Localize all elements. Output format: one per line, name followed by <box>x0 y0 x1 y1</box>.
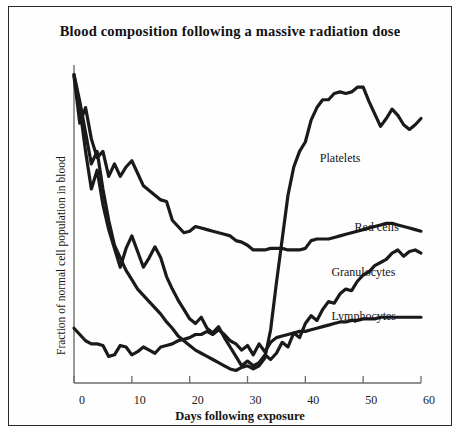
x-tick-label-10: 10 <box>125 393 155 408</box>
figure-frame: Blood composition following a massive ra… <box>8 6 452 426</box>
series-label-red-cells: Red cells <box>355 220 399 235</box>
x-tick-label-0: 0 <box>67 393 97 408</box>
x-tick-label-50: 50 <box>356 393 386 408</box>
x-tick-label-60: 60 <box>414 393 444 408</box>
x-tick-label-20: 20 <box>183 393 213 408</box>
x-axis-ticks <box>74 376 421 383</box>
blood-composition-line-chart <box>9 7 453 427</box>
series-label-lymphocytes: Lymphocytes <box>331 309 396 324</box>
series-label-granulocytes: Granulocytes <box>331 265 395 280</box>
x-tick-label-40: 40 <box>298 393 328 408</box>
series-label-platelets: Platelets <box>320 151 361 166</box>
x-tick-label-30: 30 <box>241 393 271 408</box>
x-axis-title: Days following exposure <box>9 409 462 424</box>
